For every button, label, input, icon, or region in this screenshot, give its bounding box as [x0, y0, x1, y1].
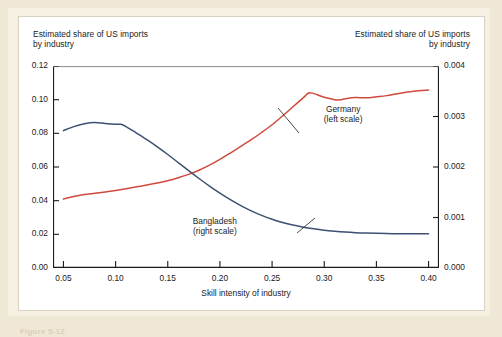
right-ytick-label: 0.000	[444, 262, 465, 272]
figure-caption: Figure 5-12	[20, 327, 65, 336]
figure-page: Estimated share of US imports by industr…	[0, 0, 502, 337]
series-label-germany: Germany (left scale)	[298, 104, 388, 125]
left-ytick-label: 0.06	[32, 161, 48, 171]
chart-panel: Estimated share of US imports by industr…	[18, 16, 485, 311]
left-ytick-label: 0.08	[32, 127, 48, 137]
x-axis-label: Skill intensity of industry	[53, 288, 439, 298]
right-ytick-label: 0.001	[444, 212, 465, 222]
right-ytick-label: 0.004	[444, 60, 465, 70]
left-ytick-label: 0.02	[32, 228, 48, 238]
right-ytick-label: 0.003	[444, 111, 465, 121]
right-ytick-label: 0.002	[444, 161, 465, 171]
xtick-label: 0.30	[316, 273, 332, 283]
left-axis-title: Estimated share of US imports by industr…	[33, 29, 148, 50]
plot-svg	[53, 66, 439, 268]
series-label-bangladesh: Bangladesh (right scale)	[170, 216, 260, 237]
xtick-label: 0.35	[368, 273, 384, 283]
xtick-label: 0.40	[420, 273, 436, 283]
xtick-label: 0.20	[212, 273, 228, 283]
xtick-label: 0.25	[264, 273, 280, 283]
xtick-label: 0.10	[107, 273, 123, 283]
plot-area: 0.000.020.040.060.080.100.12 0.0000.0010…	[53, 66, 439, 268]
left-ytick-label: 0.00	[32, 262, 48, 272]
left-ytick-label: 0.04	[32, 195, 48, 205]
xtick-label: 0.15	[160, 273, 176, 283]
annotation-leader-lines	[278, 108, 315, 233]
right-axis-title: Estimated share of US imports by industr…	[355, 29, 470, 50]
left-ytick-label: 0.10	[32, 94, 48, 104]
left-ytick-label: 0.12	[32, 60, 48, 70]
xtick-label: 0.05	[55, 273, 71, 283]
